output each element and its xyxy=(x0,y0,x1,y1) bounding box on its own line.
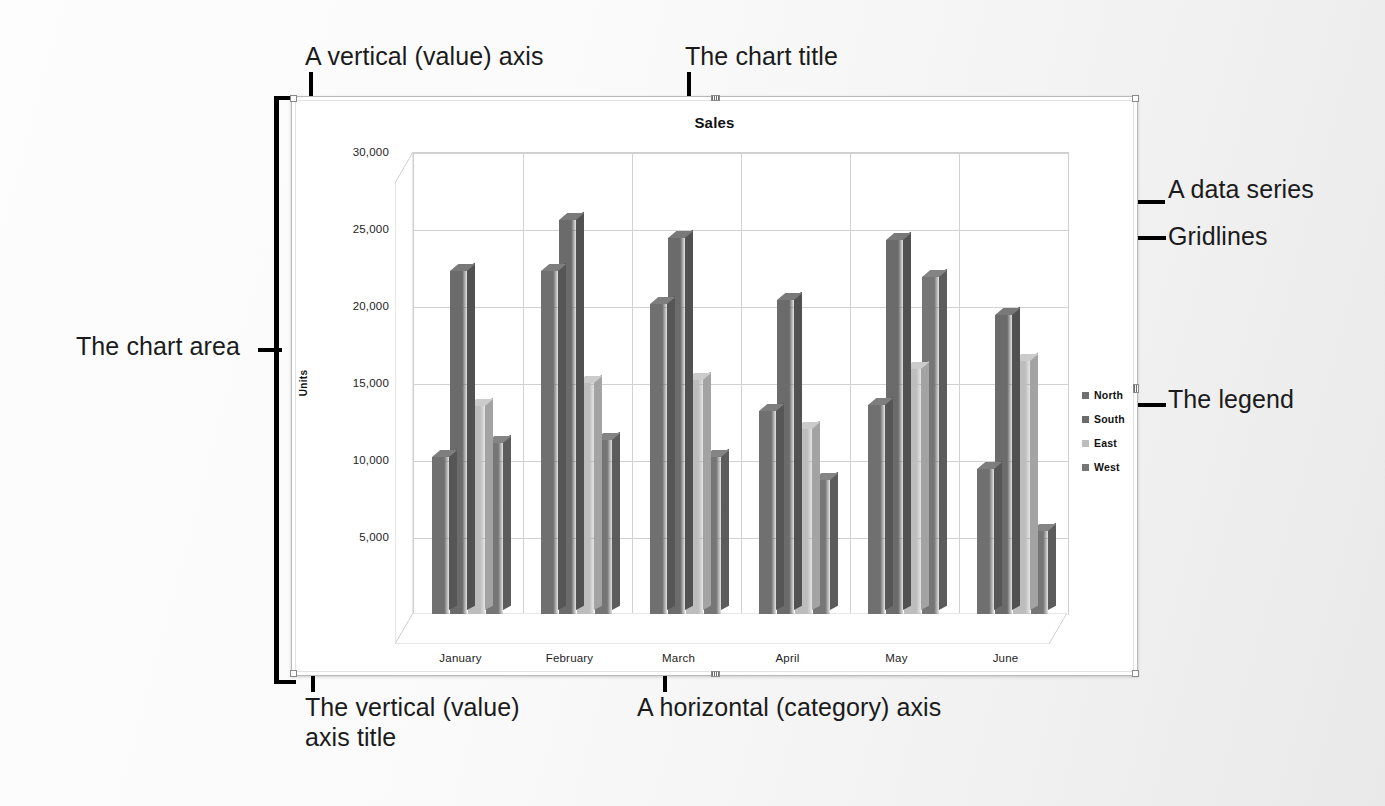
bar-groups[interactable] xyxy=(413,152,1067,614)
bar-side xyxy=(685,234,693,610)
bar-side xyxy=(576,216,584,610)
resize-handle-top-right[interactable] xyxy=(1132,95,1139,102)
callout-chart-area: The chart area xyxy=(76,332,240,362)
bar-group[interactable] xyxy=(977,152,1049,614)
resize-handle-bottom[interactable] xyxy=(711,671,720,677)
x-axis-tick-label: March xyxy=(662,652,695,664)
bar-side xyxy=(885,401,893,610)
floor-3d xyxy=(395,613,1067,644)
resize-handle-bottom-right[interactable] xyxy=(1132,670,1139,677)
callout-vertical-axis-title: The vertical (value) axis title xyxy=(305,693,520,752)
bar-face xyxy=(868,405,885,614)
chart-title[interactable]: Sales xyxy=(292,114,1137,131)
bar-face xyxy=(977,469,994,614)
bar-side xyxy=(1012,311,1020,610)
resize-handle-bottom-left[interactable] xyxy=(290,670,297,677)
chart-object[interactable]: Sales Units 5,00010,00015,00020,00025,00… xyxy=(291,96,1138,676)
bar-side xyxy=(1030,357,1038,610)
plot-area[interactable]: Units 5,00010,00015,00020,00025,00030,00… xyxy=(395,152,1067,644)
bar-group[interactable] xyxy=(868,152,940,614)
leader-chart-area-bracket xyxy=(274,96,279,684)
legend-swatch-icon xyxy=(1082,416,1089,423)
bar-north[interactable] xyxy=(432,457,449,614)
bar-side xyxy=(794,296,802,610)
legend-swatch-icon xyxy=(1082,440,1089,447)
x-axis-tick-label: April xyxy=(775,652,799,664)
bar-group[interactable] xyxy=(432,152,504,614)
bar-face xyxy=(650,304,667,614)
y-axis-tick-label: 20,000 xyxy=(353,300,389,312)
legend-label: North xyxy=(1094,389,1123,401)
y-axis-tick-label: 5,000 xyxy=(359,531,389,543)
bar-side xyxy=(485,402,493,610)
bar-side xyxy=(776,407,784,610)
bar-side xyxy=(467,267,475,610)
legend-swatch-icon xyxy=(1082,392,1089,399)
x-axis-tick-label: May xyxy=(885,652,907,664)
bar-north[interactable] xyxy=(541,271,558,614)
bar-north[interactable] xyxy=(759,411,776,614)
bar-side xyxy=(503,439,511,610)
x-axis-tick-label: January xyxy=(439,652,481,664)
legend-label: South xyxy=(1094,413,1125,425)
y-axis-tick-label: 15,000 xyxy=(353,377,389,389)
callout-data-series: A data series xyxy=(1168,175,1314,205)
bar-side xyxy=(667,300,675,610)
callout-vertical-axis: A vertical (value) axis xyxy=(305,42,544,72)
bar-side xyxy=(1048,527,1056,610)
y-axis-title[interactable]: Units xyxy=(298,370,309,397)
bar-side xyxy=(812,425,820,610)
bar-side xyxy=(903,236,911,610)
resize-handle-top[interactable] xyxy=(711,95,720,101)
resize-handle-top-left[interactable] xyxy=(290,95,297,102)
bar-side xyxy=(721,453,729,610)
legend-item-north[interactable]: North xyxy=(1082,383,1125,407)
side-wall-3d xyxy=(395,152,414,644)
bar-group[interactable] xyxy=(759,152,831,614)
callout-chart-title: The chart title xyxy=(685,42,838,72)
bar-side xyxy=(830,476,838,610)
resize-handle-right[interactable] xyxy=(1133,384,1139,393)
bar-north[interactable] xyxy=(650,304,667,614)
chart-legend[interactable]: NorthSouthEastWest xyxy=(1082,383,1125,479)
bar-side xyxy=(703,376,711,610)
legend-item-east[interactable]: East xyxy=(1082,431,1125,455)
callout-horizontal-axis: A horizontal (category) axis xyxy=(637,693,941,723)
bar-side xyxy=(558,267,566,610)
bar-side xyxy=(594,379,602,610)
bar-side xyxy=(921,365,929,610)
legend-swatch-icon xyxy=(1082,464,1089,471)
bar-group[interactable] xyxy=(650,152,722,614)
y-axis-tick-label: 25,000 xyxy=(353,223,389,235)
legend-label: East xyxy=(1094,437,1117,449)
x-axis-tick-label: June xyxy=(993,652,1019,664)
bar-side xyxy=(994,465,1002,610)
y-axis-tick-labels[interactable]: 5,00010,00015,00020,00025,00030,000 xyxy=(323,152,389,614)
callout-legend: The legend xyxy=(1168,385,1294,415)
leader-chart-area-bottom xyxy=(274,680,296,684)
bar-face xyxy=(432,457,449,614)
bar-face xyxy=(541,271,558,614)
legend-item-west[interactable]: West xyxy=(1082,455,1125,479)
legend-item-south[interactable]: South xyxy=(1082,407,1125,431)
y-axis-tick-label: 30,000 xyxy=(353,146,389,158)
bar-side xyxy=(939,273,947,610)
callout-gridlines: Gridlines xyxy=(1168,222,1268,252)
bar-north[interactable] xyxy=(868,405,885,614)
bar-face xyxy=(759,411,776,614)
bar-side xyxy=(612,436,620,610)
y-axis-tick-label: 10,000 xyxy=(353,454,389,466)
bar-north[interactable] xyxy=(977,469,994,614)
bar-group[interactable] xyxy=(541,152,613,614)
legend-label: West xyxy=(1094,461,1120,473)
bar-side xyxy=(449,453,457,610)
x-axis-tick-label: February xyxy=(546,652,594,664)
